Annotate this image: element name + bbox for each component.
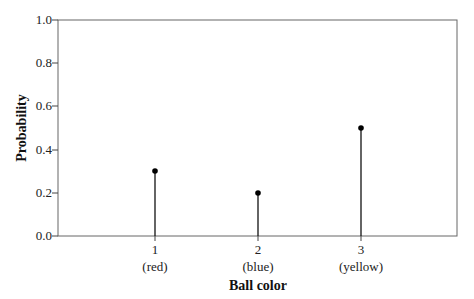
y-tick-label: 0.4 [36, 142, 53, 157]
x-axis-title: Ball color [229, 278, 287, 293]
stem-marker-yellow [358, 125, 364, 131]
x-tick-label: 2 [255, 242, 262, 257]
x-tick-label: 1 [152, 242, 159, 257]
x-tick-sublabel: (blue) [242, 259, 273, 274]
y-tick-label: 0.8 [36, 55, 52, 70]
x-tick-sublabel: (red) [142, 259, 167, 274]
y-axis: 0.0 0.2 0.4 0.6 0.8 1.0 [36, 12, 58, 243]
y-tick-label: 1.0 [36, 12, 52, 27]
y-axis-title: Probability [14, 94, 29, 161]
y-tick-label: 0.2 [36, 185, 52, 200]
x-tick-sublabel: (yellow) [339, 259, 383, 274]
stem-marker-red [152, 168, 158, 174]
stem-chart: 0.0 0.2 0.4 0.6 0.8 1.0 Probability 1 2 … [0, 0, 474, 299]
x-axis: 1 2 3 (red) (blue) (yellow) [142, 236, 383, 274]
y-tick-label: 0.0 [36, 228, 52, 243]
stems [152, 125, 364, 236]
x-tick-label: 3 [358, 242, 365, 257]
stem-marker-blue [255, 190, 261, 196]
y-tick-label: 0.6 [36, 98, 53, 113]
